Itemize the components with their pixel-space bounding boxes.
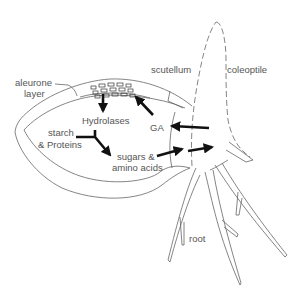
scutellum-outline: [170, 112, 175, 168]
label-scutellum: scutellum: [151, 64, 191, 75]
seed-diagram: aleurone layer scutellum coleoptile Hydr…: [0, 0, 305, 300]
aleurone-inner-line: [80, 93, 150, 98]
root-middle: [205, 170, 241, 285]
label-aleurone-layer: layer: [24, 88, 45, 99]
root-right-branch: [236, 192, 242, 215]
label-starch: starch: [48, 127, 74, 138]
coleoptile-right-outline: [216, 22, 250, 157]
root-upper-right: [226, 142, 253, 162]
root-middle-branch: [222, 220, 238, 237]
label-hydrolases: Hydrolases: [82, 115, 130, 126]
diagram-canvas: aleurone layer scutellum coleoptile Hydr…: [0, 0, 305, 300]
arrow-embryo-to-ga: [172, 126, 209, 128]
label-coleoptile: coleoptile: [227, 64, 267, 75]
label-sugars: sugars &: [117, 151, 155, 162]
label-proteins: & Proteins: [38, 139, 82, 150]
root-left: [168, 168, 200, 262]
label-aleurone: aleurone: [15, 77, 52, 88]
scutellum-pointer: [168, 91, 183, 108]
root-right: [215, 163, 287, 257]
label-root: root: [189, 233, 206, 244]
aleurone-pointer: [55, 84, 77, 96]
seedling-left-outline: [191, 22, 216, 166]
label-ga: GA: [150, 122, 164, 133]
label-amino-acids: amino acids: [112, 162, 163, 173]
arrow-ga-to-aleurone: [136, 97, 153, 115]
